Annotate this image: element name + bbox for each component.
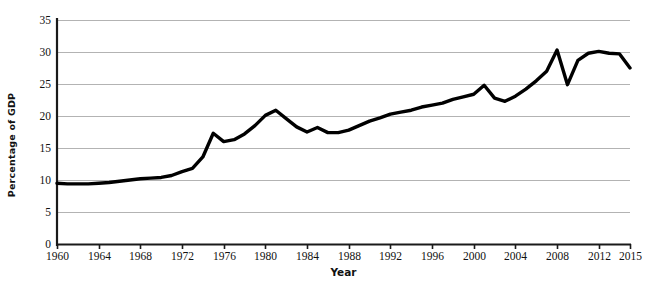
gdp-percentage-line-chart: Percentage of GDP 35 30 25 20 15 10 5 0 … xyxy=(0,0,648,290)
x-tick-label: 2004 xyxy=(504,250,527,262)
x-tick-label: 1972 xyxy=(171,250,194,262)
x-tick-label: 1984 xyxy=(296,250,319,262)
x-tick-label: 2015 xyxy=(619,250,642,262)
x-tick-label: 2000 xyxy=(463,250,486,262)
plot-area xyxy=(0,0,648,290)
x-tick-label: 1996 xyxy=(421,250,444,262)
x-tick-label: 1988 xyxy=(338,250,361,262)
x-tick-label: 1976 xyxy=(213,250,236,262)
x-tick-label: 1964 xyxy=(88,250,111,262)
x-tick-label: 1992 xyxy=(379,250,402,262)
gridlines xyxy=(57,21,630,213)
x-tick-label: 1980 xyxy=(254,250,277,262)
x-tick-label: 1960 xyxy=(46,250,69,262)
x-axis-title: Year xyxy=(57,266,630,278)
x-tick-label: 2012 xyxy=(588,250,611,262)
x-tick-label: 1968 xyxy=(129,250,152,262)
x-tick-label: 2008 xyxy=(546,250,569,262)
